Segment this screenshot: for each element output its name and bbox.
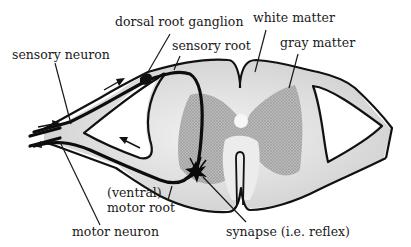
- label-ventral: (ventral): [107, 185, 162, 200]
- central-canal: [234, 114, 248, 128]
- label-white-matter: white matter: [253, 10, 335, 25]
- spinal-cord-diagram: dorsal root ganglion sensory root white …: [0, 0, 411, 247]
- leader-sensory-neuron: [55, 63, 71, 124]
- label-sensory-root: sensory root: [172, 38, 251, 53]
- label-motor-neuron: motor neuron: [72, 224, 159, 239]
- label-gray-matter: gray matter: [280, 35, 355, 50]
- label-dorsal-root-ganglion: dorsal root ganglion: [115, 14, 243, 29]
- arrow-dorsal-root-icon: [104, 78, 125, 90]
- label-synapse: synapse (i.e. reflex): [226, 224, 350, 239]
- label-sensory-neuron: sensory neuron: [12, 47, 110, 62]
- label-motor-root: motor root: [107, 200, 175, 215]
